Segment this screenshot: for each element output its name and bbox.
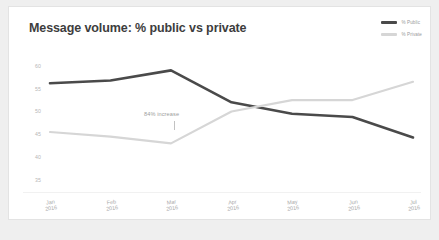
y-axis-tick: 50	[23, 108, 41, 114]
chart-plot-area: 605550454035 Jan2016Feb2016Mar2016Apr201…	[9, 7, 432, 221]
y-axis-tick: 35	[23, 177, 41, 183]
chart-annotation-tick	[174, 121, 175, 130]
y-axis-tick: 40	[23, 154, 41, 160]
chart-baseline	[23, 192, 421, 193]
series-line-public	[50, 70, 413, 137]
series-line-private	[50, 82, 413, 144]
y-axis-tick: 60	[23, 63, 41, 69]
y-axis-tick: 45	[23, 131, 41, 137]
y-axis-tick: 55	[23, 86, 41, 92]
chart-annotation-label: 84% increase	[144, 111, 179, 117]
chart-series-layer	[9, 7, 432, 221]
chart-card: Message volume: % public vs private % Pu…	[8, 6, 431, 220]
